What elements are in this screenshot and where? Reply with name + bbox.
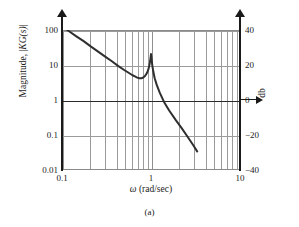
- y-axis-title-prefix: Magnitude, |: [18, 50, 28, 98]
- x-axis-title-symbol: ω: [130, 184, 137, 194]
- right-axis-title: db: [257, 75, 267, 111]
- x-tick-label: 0.1: [56, 174, 67, 183]
- figure-caption: (a): [0, 207, 299, 217]
- y-axis-title-suffix: |: [18, 25, 28, 27]
- x-tick-label: 10: [236, 174, 245, 183]
- y-axis-title: Magnitude, |KG(s)|: [18, 0, 28, 126]
- x-axis-title-rest: (rad/sec): [137, 184, 173, 194]
- x-axis-title: ω (rad/sec): [62, 184, 240, 194]
- y-axis-title-italic: KG(s): [18, 26, 28, 49]
- x-tick-label: 1: [149, 174, 154, 183]
- bode-magnitude-figure: 0.010.1110100 −40−2002040 0.1110 Magnitu…: [0, 0, 299, 227]
